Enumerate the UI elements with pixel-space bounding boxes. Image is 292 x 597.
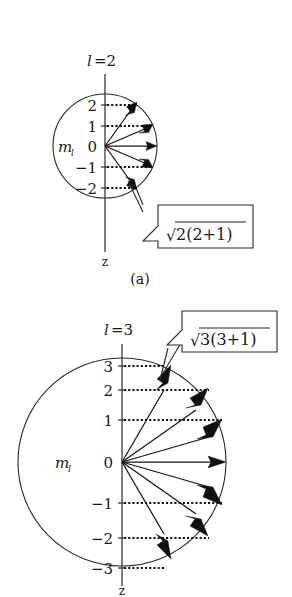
panel-b-title-l: l xyxy=(104,321,109,339)
panel-a-vectors xyxy=(105,102,157,190)
panel-b-vector-mneg2 xyxy=(122,462,208,536)
panel-b-tick-label-neg1: −1 xyxy=(91,495,113,513)
panel-b-tick-label-3: 3 xyxy=(103,358,113,376)
panel-b-vector-m2 xyxy=(122,388,208,462)
panel-b-tick-label-1: 1 xyxy=(103,412,113,430)
panel-a-ml-subscript: l xyxy=(71,148,74,158)
figure-root: 2 1 0 −1 −2 m l l =2 z xyxy=(0,0,292,597)
panel-a-tick-label-neg1: −1 xyxy=(75,159,97,177)
panel-a-title-l: l xyxy=(87,52,92,70)
panel-a-tick-label-neg2: −2 xyxy=(75,180,97,198)
figure-caption-a: (a) xyxy=(130,271,149,287)
panel-b-vector-m3 xyxy=(122,365,171,462)
panel-b-vector-mneg3 xyxy=(122,462,171,559)
panel-a-tick-label-2: 2 xyxy=(87,97,97,115)
panel-a-title-value: =2 xyxy=(94,52,116,70)
panel-a-axis-label: z xyxy=(102,255,108,269)
panel-b-vectors xyxy=(122,365,226,559)
panel-b-ml-label: m l xyxy=(55,454,71,474)
panel-a-tick-label-0: 0 xyxy=(87,138,97,156)
panel-b-group: 3 2 1 0 −1 −2 −3 m l l =3 z xyxy=(18,311,277,597)
panel-b-vector-mneg1 xyxy=(122,462,222,505)
panel-a-ml-label: m l xyxy=(58,138,74,158)
panel-a-title: l =2 xyxy=(87,52,116,70)
panel-b-title-value: =3 xyxy=(111,321,133,339)
angular-momentum-vector-diagram: 2 1 0 −1 −2 m l l =2 z xyxy=(0,0,292,597)
panel-b-tick-label-0: 0 xyxy=(103,454,113,472)
panel-b-axis-label: z xyxy=(119,584,125,597)
panel-b-title: l =3 xyxy=(104,321,133,339)
panel-a-group: 2 1 0 −1 −2 m l l =2 z xyxy=(53,52,253,269)
panel-b-tick-label-neg2: −2 xyxy=(91,530,113,548)
panel-b-ml-subscript: l xyxy=(68,464,71,474)
panel-b-tick-label-2: 2 xyxy=(103,382,113,400)
panel-a-tick-label-1: 1 xyxy=(87,118,97,136)
panel-b-tick-label-neg3: −3 xyxy=(91,560,113,578)
panel-b-radicand: 3(3+1) xyxy=(200,330,256,349)
panel-b-vector-m1 xyxy=(122,419,222,462)
panel-a-radicand: 2(2+1) xyxy=(176,225,232,244)
